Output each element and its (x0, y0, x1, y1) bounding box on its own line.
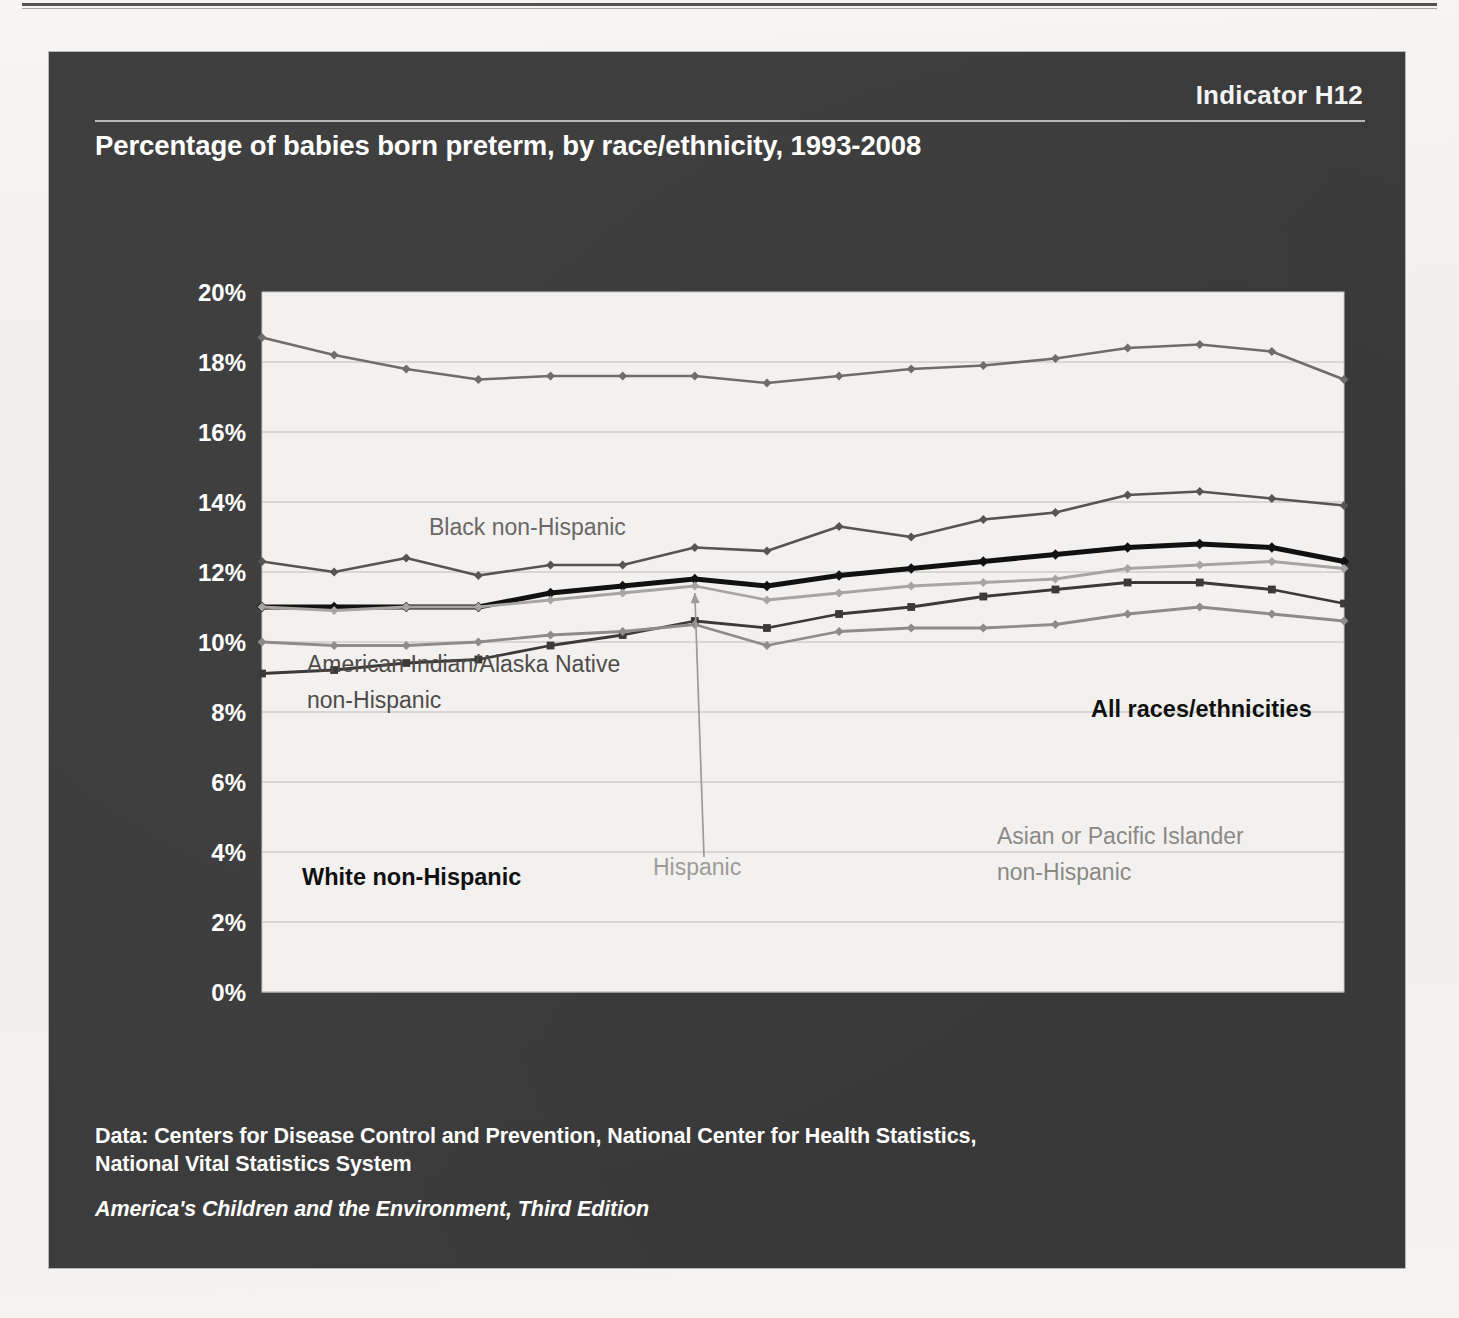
chart-panel: Indicator H12 Percentage of babies born … (49, 52, 1405, 1268)
ann-aian-2: non-Hispanic (307, 687, 441, 713)
y-axis-tick-labels: 0%2%4%6%8%10%12%14%16%18%20% (198, 279, 246, 1006)
y-tick-label: 6% (211, 769, 246, 796)
y-tick-label: 14% (198, 489, 246, 516)
source-line-2: National Vital Statistics System (95, 1150, 1335, 1179)
data-point (763, 624, 771, 632)
y-tick-label: 16% (198, 419, 246, 446)
ann-white: White non-Hispanic (302, 864, 521, 890)
plot-block: 0%2%4%6%8%10%12%14%16%18%20% 19931996199… (49, 230, 1405, 1010)
ann-aian-1: American Indian/Alaska Native (307, 651, 620, 677)
y-tick-label: 18% (198, 349, 246, 376)
y-tick-label: 2% (211, 909, 246, 936)
data-point (1340, 600, 1348, 608)
y-tick-label: 20% (198, 279, 246, 306)
data-point (835, 610, 843, 618)
y-tick-label: 12% (198, 559, 246, 586)
source-line-1: Data: Centers for Disease Control and Pr… (95, 1122, 1335, 1151)
ann-black: Black non-Hispanic (429, 514, 626, 540)
ann-allraces: All races/ethnicities (1091, 696, 1312, 722)
data-point (1052, 586, 1060, 594)
ann-asian-2: non-Hispanic (997, 859, 1131, 885)
data-point (1124, 579, 1132, 587)
line-chart-svg: 0%2%4%6%8%10%12%14%16%18%20% 19931996199… (49, 230, 1405, 1010)
data-point (1268, 586, 1276, 594)
publication-line: America's Children and the Environment, … (95, 1197, 1335, 1222)
ann-asian-1: Asian or Pacific Islander (997, 823, 1244, 849)
page-header-rule (22, 3, 1437, 6)
data-point (907, 603, 915, 611)
y-tick-label: 10% (198, 629, 246, 656)
y-tick-label: 4% (211, 839, 246, 866)
panel-header-divider (95, 120, 1365, 122)
y-tick-label: 0% (211, 979, 246, 1006)
data-point (258, 670, 266, 678)
indicator-label: Indicator H12 (1196, 80, 1363, 111)
data-point (1196, 579, 1204, 587)
chart-footer: Data: Centers for Disease Control and Pr… (95, 1122, 1335, 1222)
data-point (547, 642, 555, 650)
y-tick-label: 8% (211, 699, 246, 726)
ann-hispanic: Hispanic (653, 854, 741, 880)
scanned-page-background: Indicator H12 Percentage of babies born … (0, 0, 1459, 1318)
data-point (979, 593, 987, 601)
chart-title: Percentage of babies born preterm, by ra… (95, 130, 921, 162)
